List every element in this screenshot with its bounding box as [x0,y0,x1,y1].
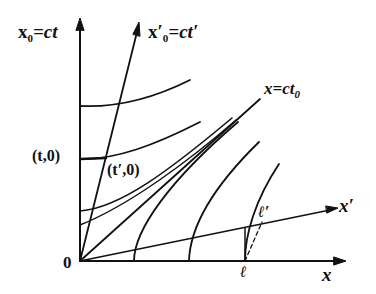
timelike-hyperbola-3 [80,118,232,211]
light-line-label: x=ct0 [264,80,300,100]
time-axis-prime-label: x′0=ct′ [148,22,198,44]
length-label: ℓ [240,264,247,280]
time-axis-label: x0=ct [18,22,58,44]
time-axis-prime-label-rest: =ct′ [168,21,198,42]
light-line-label-sub: 0 [294,88,300,100]
spacelike-hyperbola-2 [189,142,259,261]
length-prime-label: ℓ′ [258,204,269,220]
x-axis-prime-arrow-icon [326,206,338,213]
timelike-hyperbola-3b [80,120,236,225]
x-axis-prime-label: x′ [339,196,354,215]
timelike-hyperbola-1 [80,80,190,106]
x-axis-arrow-icon [334,257,346,265]
timelike-hyperbola-2 [80,122,200,159]
event-t-prime-label: (t′,0) [107,162,139,178]
time-axis-prime-arrow-icon [133,22,140,36]
time-axis-prime [80,32,137,261]
light-line-label-main: x=ct [264,79,294,98]
t-event-connector [80,158,106,159]
time-axis-arrow-icon [76,18,84,30]
origin-label: 0 [63,254,72,271]
event-t-label: (t,0) [32,148,60,164]
x-axis-prime [80,210,330,261]
time-axis-prime-label-main: x [148,21,158,42]
x-axis-label: x [322,265,332,284]
time-axis-label-rest: =ct [33,21,58,42]
time-axis-label-main: x [18,21,28,42]
